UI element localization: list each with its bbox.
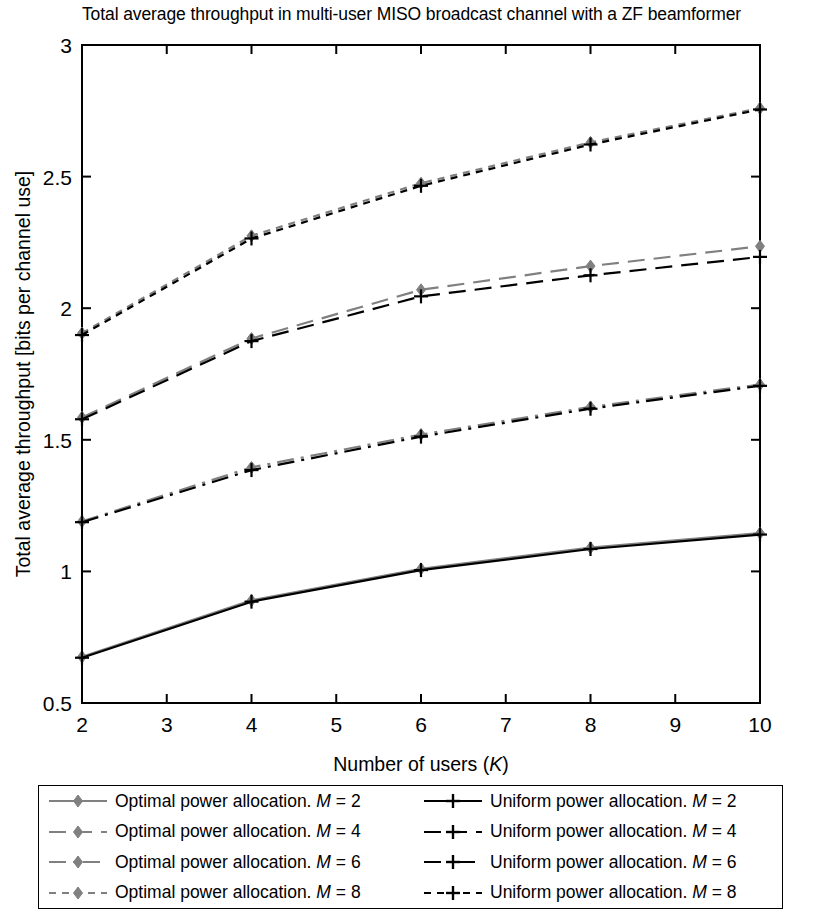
legend-swatch-icon [422, 884, 484, 902]
series-line [82, 385, 760, 522]
chart-plot: 23456789100.511.522.53Number of users (K… [0, 0, 823, 780]
legend-item-1[interactable]: Optimal power allocation. M = 2 [39, 792, 414, 810]
legend-label: Uniform power allocation. M = 8 [490, 884, 737, 902]
legend-swatch-icon [422, 823, 484, 841]
x-tick-label: 2 [76, 713, 88, 736]
x-tick-label: 10 [748, 713, 771, 736]
series-6 [75, 250, 767, 426]
legend-swatch-icon [47, 853, 109, 871]
legend-label: Optimal power allocation. M = 6 [115, 854, 361, 872]
x-tick-label: 8 [585, 713, 597, 736]
series-line [82, 535, 760, 658]
x-tick-label: 4 [246, 713, 258, 736]
y-tick-label: 1 [60, 560, 72, 583]
legend-swatch-icon [47, 884, 109, 902]
legend-label: Optimal power allocation. M = 4 [115, 823, 361, 841]
series-line [82, 533, 760, 657]
y-tick-label: 2 [60, 297, 72, 320]
x-tick-label: 6 [415, 713, 427, 736]
series-1 [78, 527, 765, 663]
y-tick-label: 0.5 [43, 692, 72, 715]
chart-legend: Optimal power allocation. M = 2Uniform p… [38, 785, 783, 909]
x-tick-label: 3 [161, 713, 173, 736]
legend-item-2[interactable]: Optimal power allocation. M = 4 [39, 823, 414, 841]
x-tick-label: 5 [330, 713, 342, 736]
y-tick-label: 2.5 [43, 166, 72, 189]
series-7 [75, 379, 767, 529]
series-line [82, 246, 760, 417]
y-axis-title: Total average throughput [bits per chann… [12, 171, 34, 578]
chart-page: Total average throughput in multi-user M… [0, 0, 823, 923]
plot-frame [82, 45, 760, 703]
y-tick-label: 1.5 [43, 429, 72, 452]
series-line [82, 257, 760, 419]
series-line [82, 386, 760, 522]
series-3 [78, 379, 765, 528]
legend-label: Uniform power allocation. M = 6 [490, 854, 737, 872]
legend-item-3[interactable]: Optimal power allocation. M = 6 [39, 853, 414, 871]
legend-swatch-icon [47, 823, 109, 841]
legend-label: Uniform power allocation. M = 4 [490, 823, 737, 841]
legend-label: Uniform power allocation. M = 2 [490, 793, 737, 811]
x-tick-label: 7 [500, 713, 512, 736]
series-5 [75, 528, 767, 665]
legend-swatch-icon [47, 792, 109, 810]
legend-item-5[interactable]: Uniform power allocation. M = 2 [414, 792, 784, 810]
legend-label: Optimal power allocation. M = 8 [115, 884, 361, 902]
y-tick-label: 3 [60, 34, 72, 57]
legend-item-4[interactable]: Optimal power allocation. M = 8 [39, 884, 414, 902]
x-tick-label: 9 [669, 713, 681, 736]
legend-item-6[interactable]: Uniform power allocation. M = 4 [414, 823, 784, 841]
legend-item-7[interactable]: Uniform power allocation. M = 6 [414, 853, 784, 871]
series-8 [75, 102, 767, 342]
series-4 [78, 102, 765, 339]
legend-item-8[interactable]: Uniform power allocation. M = 8 [414, 884, 784, 902]
legend-label: Optimal power allocation. M = 2 [115, 793, 361, 811]
legend-swatch-icon [422, 792, 484, 810]
legend-swatch-icon [422, 853, 484, 871]
x-axis-title: Number of users (K) [333, 753, 509, 775]
